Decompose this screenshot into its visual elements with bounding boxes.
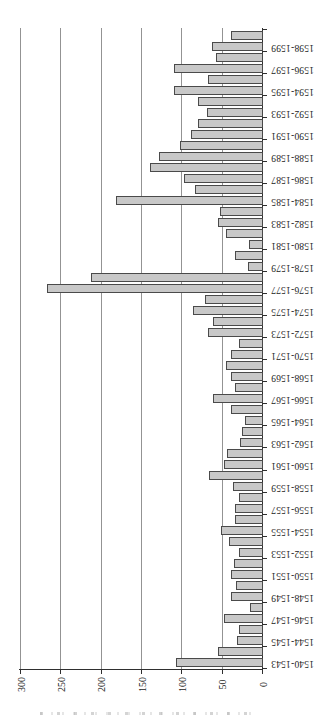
- category-label: 1588-1589: [266, 151, 319, 164]
- bar-1592-1593-series-1: [207, 108, 263, 117]
- category-label: 1596-1597: [266, 63, 319, 76]
- bar-1562-1563-series-1: [240, 438, 263, 447]
- bar-1584-1585-series-1: [116, 196, 263, 205]
- category-label: 1546-1547: [266, 613, 319, 626]
- bar-1598-1599-series-2: [231, 31, 263, 40]
- category-tick: [262, 29, 267, 30]
- category-label: 1584-1585: [266, 195, 319, 208]
- category-label: 1556-1557: [266, 503, 319, 516]
- bar-1594-1595-series-1: [174, 86, 263, 95]
- category-label: 1560-1561: [266, 459, 319, 472]
- bar-1570-1571-series-2: [239, 339, 263, 348]
- bar-1552-1553-series-2: [229, 537, 263, 546]
- category-label: 1578-1579: [266, 261, 319, 274]
- bar-1546-1547-series-1: [224, 614, 263, 623]
- bar-1550-1551-series-1: [231, 570, 263, 579]
- category-label: 1562-1563: [266, 437, 319, 450]
- bar-1562-1563-series-2: [242, 427, 263, 436]
- category-label: 1598-1599: [266, 41, 319, 54]
- category-label: 1566-1567: [266, 393, 319, 406]
- bar-1560-1561-series-2: [227, 449, 263, 458]
- category-label: 1590-1591: [266, 129, 319, 142]
- bar-1574-1575-series-1: [193, 306, 263, 315]
- bar-1594-1595-series-2: [208, 75, 263, 84]
- category-label: 1568-1569: [266, 371, 319, 384]
- bar-1546-1547-series-2: [250, 603, 263, 612]
- bar-1576-1577-series-1: [47, 284, 263, 293]
- bar-1586-1587-series-2: [150, 163, 263, 172]
- category-label: 1582-1583: [266, 217, 319, 230]
- bar-1584-1585-series-2: [195, 185, 263, 194]
- value-tick-label: 0: [257, 673, 268, 697]
- category-label: 1554-1555: [266, 525, 319, 538]
- bar-1580-1581-series-2: [226, 229, 263, 238]
- bar-1550-1551-series-2: [234, 559, 263, 568]
- bar-1588-1589-series-1: [159, 152, 263, 161]
- value-tick-label: 250: [55, 673, 66, 697]
- bar-1540-1543-series-2: [218, 647, 263, 656]
- bar-1564-1565-series-1: [245, 416, 263, 425]
- bar-1572-1573-series-1: [208, 328, 263, 337]
- bar-1590-1591-series-2: [198, 119, 263, 128]
- category-label: 1540-1543: [266, 657, 319, 670]
- bar-1568-1569-series-1: [231, 372, 263, 381]
- gridline-150: [141, 28, 142, 669]
- bar-1544-1545-series-2: [239, 625, 263, 634]
- bar-1556-1557-series-1: [235, 504, 263, 513]
- bar-1574-1575-series-2: [205, 295, 263, 304]
- bar-1582-1583-series-2: [220, 207, 263, 216]
- category-label: 1550-1551: [266, 569, 319, 582]
- bar-1558-1559-series-1: [233, 482, 263, 491]
- bar-1570-1571-series-1: [231, 350, 263, 359]
- bar-1554-1555-series-1: [221, 526, 263, 535]
- bar-1576-1577-series-2: [91, 273, 263, 282]
- category-label: 1548-1549: [266, 591, 319, 604]
- bar-1588-1589-series-2: [180, 141, 263, 150]
- bar-1596-1597-series-1: [174, 64, 263, 73]
- category-label: 1580-1581: [266, 239, 319, 252]
- bar-1556-1557-series-2: [239, 493, 263, 502]
- value-tick-label: 300: [15, 673, 26, 697]
- category-label: 1594-1595: [266, 85, 319, 98]
- bar-1598-1599-series-1: [212, 42, 263, 51]
- bar-1554-1555-series-2: [235, 515, 263, 524]
- bar-1558-1559-series-2: [209, 471, 263, 480]
- bar-1578-1579-series-2: [235, 251, 263, 260]
- bar-1540-1543-series-1: [176, 658, 263, 667]
- gridline-100: [181, 28, 182, 669]
- bar-1560-1561-series-1: [224, 460, 263, 469]
- bar-1544-1545-series-1: [237, 636, 263, 645]
- bar-1566-1567-series-2: [235, 383, 263, 392]
- bar-1590-1591-series-1: [191, 130, 263, 139]
- category-label: 1576-1577: [266, 283, 319, 296]
- rotated-bar-chart: 3002502001501005001598-15991596-15971594…: [0, 0, 331, 719]
- category-label: 1592-1593: [266, 107, 319, 120]
- bar-1578-1579-series-1: [248, 262, 263, 271]
- bar-1568-1569-series-2: [226, 361, 263, 370]
- bar-1552-1553-series-1: [239, 548, 263, 557]
- bar-1586-1587-series-1: [184, 174, 263, 183]
- gridline-250: [60, 28, 61, 669]
- bar-1572-1573-series-2: [213, 317, 263, 326]
- category-label: 1586-1587: [266, 173, 319, 186]
- category-label: 1558-1559: [266, 481, 319, 494]
- category-label: 1574-1575: [266, 305, 319, 318]
- cropped-caption-remnants: [40, 712, 255, 715]
- category-label: 1544-1545: [266, 635, 319, 648]
- category-label: 1564-1565: [266, 415, 319, 428]
- category-label: 1572-1573: [266, 327, 319, 340]
- bar-1596-1597-series-2: [216, 53, 263, 62]
- value-tick-label: 50: [217, 673, 228, 697]
- value-tick-label: 150: [136, 673, 147, 697]
- bar-1548-1549-series-2: [236, 581, 263, 590]
- category-label: 1570-1571: [266, 349, 319, 362]
- bar-1564-1565-series-2: [231, 405, 263, 414]
- bar-1566-1567-series-1: [213, 394, 263, 403]
- bar-1580-1581-series-1: [249, 240, 263, 249]
- category-label: 1552-1553: [266, 547, 319, 560]
- gridline-200: [101, 28, 102, 669]
- value-tick-label: 200: [96, 673, 107, 697]
- gridline-300: [20, 28, 21, 669]
- bar-1582-1583-series-1: [218, 218, 263, 227]
- value-tick-label: 100: [176, 673, 187, 697]
